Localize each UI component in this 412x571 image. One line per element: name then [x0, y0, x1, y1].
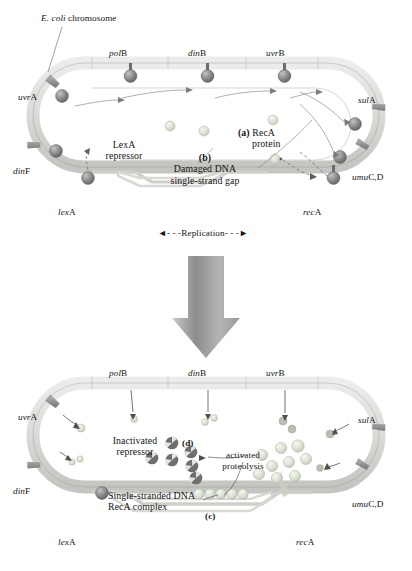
lexa-sphere: [56, 90, 69, 103]
filament-bead: [238, 489, 248, 499]
label-inactivated-repressor: Inactivatedrepressor: [94, 435, 176, 458]
label-uvrB-bottom: uvrB: [266, 368, 285, 379]
transition-arrow: [172, 256, 240, 358]
product-sphere: [211, 415, 218, 422]
label-tag-d: (d): [182, 438, 194, 449]
reca-sphere: [270, 154, 280, 164]
label-ecoli-chromosome: E. coli chromosome: [41, 13, 117, 24]
band-sulA-bottom: [379, 424, 380, 430]
label-uvrB-top: uvrB: [266, 48, 285, 59]
label-lexA-bottom: lexA: [58, 537, 76, 548]
ssdna-reca-filament: [194, 489, 248, 499]
panel-bottom-chromosome: [33, 377, 379, 511]
label-dinB-bottom: dinB: [188, 368, 206, 379]
label-lexa-repressor: LexArepressor: [92, 139, 156, 162]
band-uvrA-bottom: [51, 399, 56, 405]
label-uvrA-bottom: uvrA: [18, 412, 37, 423]
reca-sphere: [268, 115, 278, 125]
lexa-sphere: [82, 172, 95, 185]
sos-response-illustration: [0, 0, 412, 571]
protein-sphere: [289, 470, 300, 481]
product-sphere: [288, 425, 296, 433]
product-sphere: [77, 456, 83, 462]
filament-bead: [194, 489, 204, 499]
label-umuCD-top: umuC,D: [352, 172, 384, 183]
filament-bead: [216, 489, 226, 499]
label-polB-top: polB: [109, 48, 127, 59]
protein-sphere: [300, 453, 311, 464]
repressor-fragment: [185, 459, 198, 472]
label-tag-c: (c): [205, 511, 216, 522]
reca-sphere: [199, 126, 209, 136]
filament-bead: [227, 489, 237, 499]
label-damaged-dna: (b) Damaged DNA single-strand gap: [150, 152, 260, 186]
label-recA-top: recA: [303, 207, 321, 218]
lexa-sphere-bottom: [96, 487, 109, 500]
label-reca-protein: (a) RecA protein: [238, 127, 280, 150]
label-replication: ◄- - -Replication- - -►: [128, 228, 278, 239]
label-sulA-top: sulA: [358, 95, 376, 106]
protein-sphere: [283, 456, 294, 467]
label-recA-bottom: recA: [296, 537, 314, 548]
band-uvrA-top: [51, 79, 56, 85]
label-dinF-bottom: dinF: [13, 486, 30, 497]
label-uvrA-top: uvrA: [18, 92, 37, 103]
reca-sphere: [165, 121, 175, 131]
label-polB-bottom: polB: [109, 368, 127, 379]
protein-sphere: [292, 440, 304, 452]
label-dinB-top: dinB: [188, 48, 206, 59]
label-lexA-top: lexA: [58, 207, 76, 218]
figure-canvas: E. coli chromosome polB dinB uvrB uvrA d…: [0, 0, 412, 571]
band-sulA-top: [379, 104, 380, 110]
proteolysis-arrowhead: [199, 455, 206, 461]
label-dinF-top: dinF: [13, 166, 30, 177]
label-umuCD-bottom: umuC,D: [352, 499, 384, 510]
repressor-fragment: [189, 471, 202, 484]
label-ssdna-reca-complex: Single-stranded DNARecA complex: [108, 490, 195, 513]
band-umuCD-top: [361, 142, 364, 147]
band-umuCD-bottom: [361, 462, 364, 467]
lexa-sphere: [50, 145, 63, 158]
product-sphere: [317, 465, 324, 472]
label-activated-proteolysis: activatedproteolysis: [208, 450, 278, 471]
label-sulA-bottom: sulA: [358, 415, 376, 426]
lexa-sphere: [349, 118, 362, 131]
product-sphere: [202, 419, 209, 426]
